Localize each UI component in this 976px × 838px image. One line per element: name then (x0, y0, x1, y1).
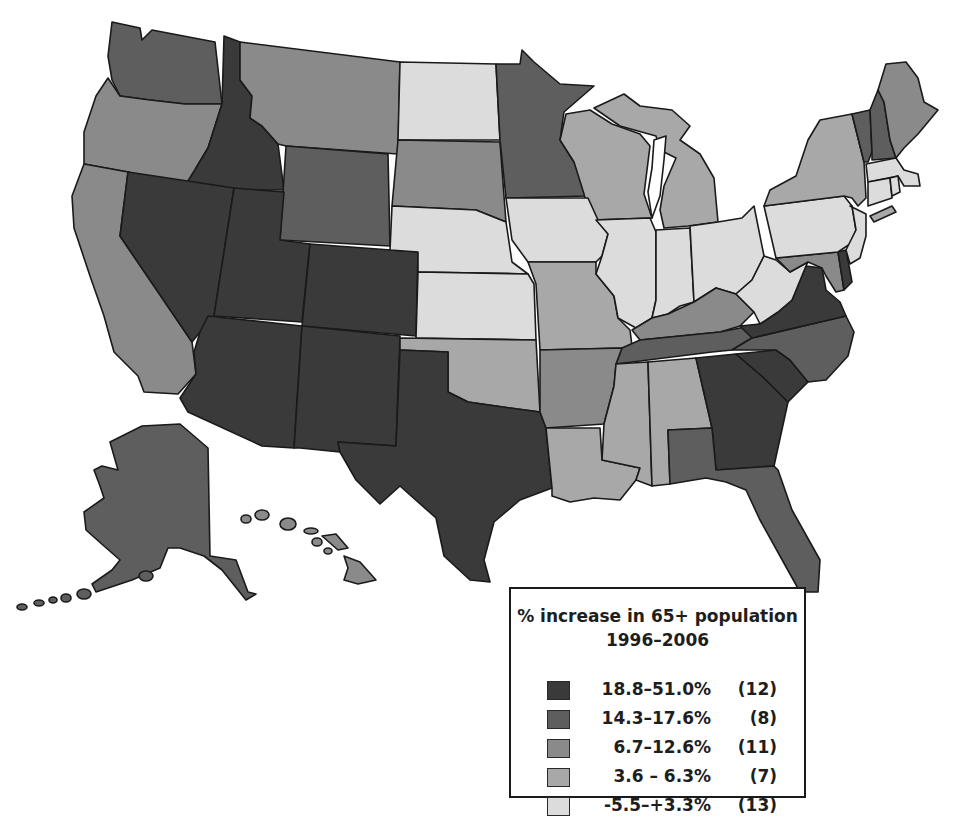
legend-count: (13) (738, 795, 777, 815)
legend-title: % increase in 65+ population 1996–2006 (511, 604, 804, 652)
legend-swatch (547, 681, 570, 700)
state-RI (890, 176, 900, 196)
legend-row: 6.7–12.6% (11) (547, 735, 777, 764)
legend-count: (8) (750, 708, 777, 728)
legend-swatch (547, 710, 570, 729)
legend-swatch (547, 797, 570, 816)
legend: % increase in 65+ population 1996–2006 1… (509, 587, 806, 798)
state-NY (764, 114, 866, 206)
state-HI-island (312, 538, 322, 546)
legend-range: 18.8–51.0% (589, 679, 711, 699)
state-HI-island (280, 518, 296, 530)
legend-range: -5.5–+3.3% (589, 795, 711, 815)
legend-rows: 18.8–51.0% (12) 14.3–17.6% (8) 6.7–12.6%… (547, 677, 777, 822)
state-KS (416, 272, 536, 340)
legend-row: 3.6 – 6.3% (7) (547, 764, 777, 793)
state-AK-island (61, 594, 71, 602)
state-PA (764, 196, 856, 258)
state-HI-island (241, 515, 251, 523)
legend-row: 14.3–17.6% (8) (547, 706, 777, 735)
legend-count: (12) (738, 679, 777, 699)
legend-title-line2: 1996–2006 (511, 628, 804, 652)
legend-row: -5.5–+3.3% (13) (547, 793, 777, 822)
legend-swatch (547, 768, 570, 787)
state-HI-island (324, 548, 332, 554)
state-AK-island (34, 600, 44, 606)
state-CT (868, 178, 892, 206)
state-NM (294, 326, 400, 452)
state-AZ (180, 316, 302, 448)
state-CO (302, 244, 418, 336)
state-IA (506, 198, 608, 262)
state-AK-island (49, 597, 57, 603)
state-HI-island (304, 528, 318, 534)
state-AK (84, 424, 256, 600)
legend-range: 6.7–12.6% (589, 737, 711, 757)
state-ND (398, 62, 500, 140)
state-HI-big-island (344, 556, 376, 584)
state-HI-island (255, 510, 269, 520)
state-NY-long-island (870, 206, 896, 222)
legend-title-line1: % increase in 65+ population (511, 604, 804, 628)
legend-row: 18.8–51.0% (12) (547, 677, 777, 706)
state-AK-island (77, 589, 91, 599)
legend-range: 14.3–17.6% (589, 708, 711, 728)
state-WA (108, 22, 222, 104)
legend-swatch (547, 739, 570, 758)
legend-count: (11) (738, 737, 777, 757)
state-AK-island (139, 571, 153, 581)
us-choropleth-map (0, 0, 976, 838)
state-WY (280, 146, 390, 246)
legend-range: 3.6 – 6.3% (589, 766, 711, 786)
state-AK-island (17, 604, 27, 610)
legend-count: (7) (750, 766, 777, 786)
